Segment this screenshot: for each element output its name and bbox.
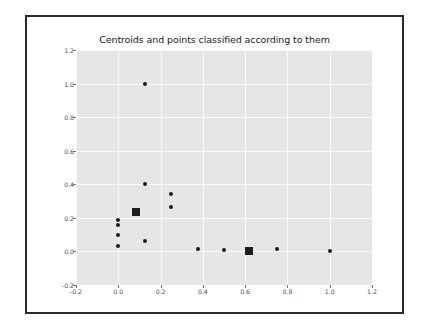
plot-area (76, 50, 372, 285)
gridline-horizontal-7 (76, 50, 372, 51)
centroid-marker (245, 247, 253, 255)
data-point (143, 182, 147, 186)
data-point (116, 223, 120, 227)
data-point (169, 192, 173, 196)
x-tick-label: -0.2 (56, 288, 96, 295)
x-tickmark (330, 285, 331, 288)
y-tickmark (73, 184, 76, 185)
y-tickmark (73, 117, 76, 118)
gridline-vertical-5 (287, 50, 288, 285)
data-point (328, 249, 332, 253)
gridline-horizontal-5 (76, 117, 372, 118)
x-tick-label: 0.2 (141, 288, 181, 295)
data-point (169, 205, 173, 209)
data-point (275, 247, 279, 251)
y-tickmark (73, 218, 76, 219)
data-point (143, 239, 147, 243)
gridline-horizontal-2 (76, 218, 372, 219)
gridline-vertical-1 (118, 50, 119, 285)
y-tick-label: 1.2 (34, 47, 74, 54)
x-axis-tick-labels: -0.20.00.20.40.60.81.01.2 (76, 288, 372, 302)
gridline-horizontal-6 (76, 84, 372, 85)
y-tick-label: 0.6 (34, 147, 74, 154)
y-tickmark (73, 50, 76, 51)
x-tick-label: 0.6 (225, 288, 265, 295)
y-axis-tick-labels: -0.20.00.20.40.60.81.01.2 (31, 50, 74, 285)
y-tickmark (73, 151, 76, 152)
data-point (222, 248, 226, 252)
x-tick-label: 0.8 (267, 288, 307, 295)
x-tickmark (372, 285, 373, 288)
x-tick-label: 0.0 (98, 288, 138, 295)
gridline-vertical-3 (203, 50, 204, 285)
x-tick-label: 0.4 (183, 288, 223, 295)
x-tickmark (118, 285, 119, 288)
data-point (116, 244, 120, 248)
y-tick-label: 0.4 (34, 181, 74, 188)
centroid-marker (132, 208, 140, 216)
x-tickmark (161, 285, 162, 288)
gridline-horizontal-3 (76, 184, 372, 185)
figure-frame: Centroids and points classified accordin… (25, 15, 404, 314)
gridline-vertical-0 (76, 50, 77, 285)
y-tick-label: 0.0 (34, 248, 74, 255)
chart-title: Centroids and points classified accordin… (27, 34, 402, 45)
x-tickmark (245, 285, 246, 288)
x-tickmark (203, 285, 204, 288)
x-tickmark (287, 285, 288, 288)
y-tickmark (73, 84, 76, 85)
x-tick-label: 1.0 (310, 288, 350, 295)
y-tick-label: 1.0 (34, 80, 74, 87)
x-tickmark (76, 285, 77, 288)
data-point (143, 82, 147, 86)
data-point (196, 247, 200, 251)
x-tick-label: 1.2 (352, 288, 392, 295)
data-point (116, 233, 120, 237)
y-axis-tickmarks (72, 50, 76, 285)
x-axis-tickmarks (76, 285, 372, 289)
y-tickmark (73, 251, 76, 252)
data-point (116, 218, 120, 222)
gridline-vertical-2 (161, 50, 162, 285)
gridline-horizontal-4 (76, 151, 372, 152)
y-tick-label: 0.8 (34, 114, 74, 121)
y-tick-label: 0.2 (34, 214, 74, 221)
